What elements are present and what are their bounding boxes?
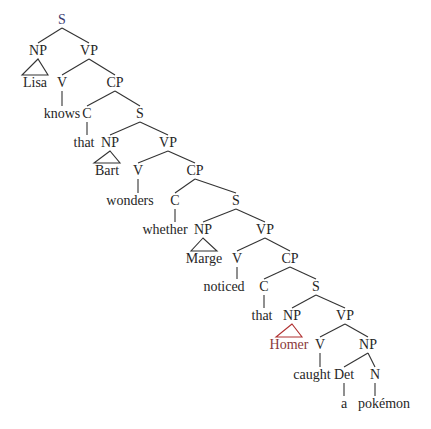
branch-line — [38, 28, 62, 43]
tree-node-category: S — [232, 194, 240, 208]
tree-leaf-word: pokémon — [358, 397, 410, 411]
branch-line — [237, 238, 265, 251]
tree-node-category: VP — [256, 223, 274, 237]
tree-node-category: S — [136, 107, 144, 121]
branch-line — [89, 59, 115, 75]
tree-node-category: C — [170, 194, 179, 208]
tree-leaf-word: Bart — [95, 164, 119, 178]
tree-node-category: V — [232, 252, 242, 266]
tree-leaf-word: Homer — [270, 338, 309, 352]
triangle-abbreviation-icon — [22, 59, 48, 75]
tree-node-category: V — [57, 76, 67, 90]
tree-node-category: S — [58, 13, 66, 27]
tree-node-category: CP — [281, 252, 298, 266]
branch-line — [62, 28, 89, 43]
tree-leaf-word: caught — [293, 368, 330, 382]
tree-leaf-word: noticed — [203, 280, 244, 294]
tree-node-category: N — [370, 368, 380, 382]
tree-node-category: CP — [186, 164, 203, 178]
branch-line — [344, 353, 368, 367]
tree-node-category: V — [133, 164, 143, 178]
tree-node-category: NP — [359, 338, 377, 352]
tree-leaf-word: Lisa — [23, 76, 47, 90]
tree-leaf-word: that — [74, 136, 95, 150]
triangle-abbreviation-icon — [191, 238, 217, 251]
tree-node-category: C — [82, 107, 91, 121]
tree-leaf-word: wonders — [106, 194, 153, 208]
triangle-abbreviation-icon — [94, 151, 120, 163]
tree-node-category: NP — [29, 44, 47, 58]
tree-leaf-word: that — [252, 309, 273, 323]
branch-line — [175, 179, 195, 193]
branch-line — [236, 209, 265, 222]
syntax-tree-diagram: SNPVPLisaVCPknowsCSthatNPVPBartVCPwonder… — [0, 0, 431, 429]
tree-node-category: NP — [283, 309, 301, 323]
branch-line — [110, 122, 140, 135]
tree-node-category: VP — [336, 309, 354, 323]
tree-node-category: NP — [101, 136, 119, 150]
tree-leaf-word: a — [341, 397, 347, 411]
tree-leaf-word: Marge — [186, 252, 222, 266]
tree-node-category: NP — [194, 223, 212, 237]
branch-line — [140, 122, 168, 135]
branch-line — [115, 91, 140, 106]
branch-line — [368, 353, 375, 367]
tree-leaf-word: knows — [44, 107, 81, 121]
triangle-abbreviation-icon — [276, 324, 302, 337]
branch-line — [168, 151, 195, 163]
branch-line — [195, 179, 236, 193]
branch-line — [62, 59, 89, 75]
tree-node-category: S — [312, 280, 320, 294]
branch-line — [203, 209, 236, 222]
branch-line — [264, 267, 290, 279]
tree-node-category: VP — [159, 136, 177, 150]
branch-line — [292, 295, 316, 308]
tree-node-category: C — [259, 280, 268, 294]
tree-node-category: VP — [80, 44, 98, 58]
branch-line — [316, 295, 345, 308]
tree-branches — [0, 0, 431, 429]
branch-line — [138, 151, 168, 163]
branch-line — [320, 324, 345, 337]
branch-line — [345, 324, 368, 337]
branch-line — [265, 238, 290, 251]
tree-node-category: Det — [334, 368, 354, 382]
branch-line — [290, 267, 316, 279]
tree-node-category: CP — [106, 76, 123, 90]
tree-leaf-word: whether — [142, 223, 187, 237]
tree-node-category: V — [315, 338, 325, 352]
branch-line — [87, 91, 115, 106]
